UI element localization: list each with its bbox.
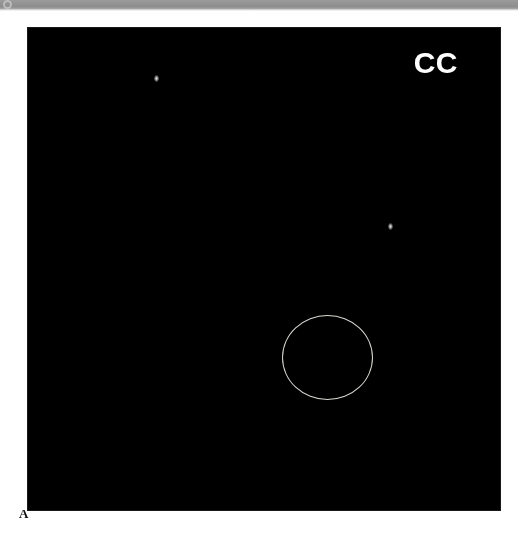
view-label: CC [414,48,458,78]
panel-label: A [19,507,28,520]
scan-header-bar [0,0,518,9]
circle-icon [3,0,12,9]
figure-page: CC A [0,0,518,547]
mammogram-image: CC [28,28,500,510]
mammogram-canvas [28,28,500,510]
scan-header-shadow [0,9,518,11]
